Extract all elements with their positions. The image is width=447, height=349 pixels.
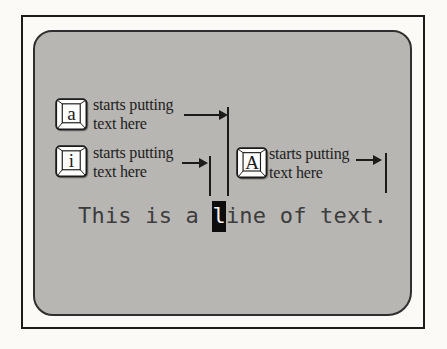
key-shift-a-label-line1: starts putting (269, 144, 349, 163)
key-a-letter: a (55, 100, 88, 128)
key-i-keycap: i (55, 145, 88, 178)
arrow-head-icon (199, 158, 208, 168)
insert-point-marker-a (227, 107, 229, 196)
key-a-label-line1: starts putting (93, 95, 173, 114)
text-before-cursor: This is a (78, 203, 212, 228)
key-shift-a-label: starts putting text here (269, 144, 349, 182)
key-a-arrow (184, 109, 228, 121)
arrow-head-icon (373, 155, 382, 165)
insert-point-marker-i (209, 156, 211, 196)
key-shift-a-letter: A (236, 149, 268, 177)
figure-canvas: a starts putting text here i starts putt… (0, 0, 447, 349)
key-i-label-line1: starts putting (93, 143, 173, 162)
key-a-label: starts putting text here (93, 95, 173, 133)
key-i-arrow (182, 157, 208, 169)
key-shift-a-label-line2: text here (269, 163, 349, 182)
terminal-screen (33, 30, 412, 316)
key-i-label-line2: text here (93, 162, 173, 181)
key-i-label: starts putting text here (93, 143, 173, 181)
key-shift-a-keycap: A (236, 147, 268, 179)
block-cursor: l (212, 201, 225, 232)
insert-point-marker-shift-a (385, 153, 387, 193)
text-line: This is a line of text. (78, 203, 387, 229)
key-i-letter: i (55, 147, 88, 175)
text-after-cursor: ine of text. (226, 203, 387, 228)
arrow-line (184, 114, 219, 116)
key-a-keycap: a (55, 98, 88, 131)
arrow-line (356, 159, 373, 161)
arrow-line (182, 162, 199, 164)
key-shift-a-arrow (356, 154, 382, 166)
key-a-label-line2: text here (93, 114, 173, 133)
